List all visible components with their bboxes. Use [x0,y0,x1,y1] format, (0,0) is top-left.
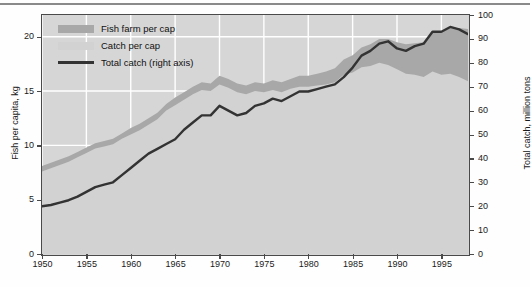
x-axis-tick-label: 1995 [424,259,460,269]
legend-swatch-total-catch [58,61,94,64]
legend-swatch-catch [58,42,94,50]
y-axis-right-tick-label: 70 [478,81,502,91]
y-axis-left-tick-label: 15 [12,86,34,96]
legend-item-fish-farm: Fish farm per cap [58,20,193,37]
y-axis-left-tick-label: 20 [12,31,34,41]
legend-item-catch: Catch per cap [58,37,193,54]
x-axis-tick-label: 1955 [69,259,105,269]
y-axis-right-tick-label: 50 [478,129,502,139]
y-axis-right-tick [469,230,474,231]
y-axis-right-tick [469,135,474,136]
chart-legend: Fish farm per cap Catch per cap Total ca… [58,20,193,71]
y-axis-left-title: Fish per capita, kg [10,58,20,188]
x-axis-tick [86,254,87,259]
y-axis-right-tick-label: 80 [478,57,502,67]
legend-item-total-catch: Total catch (right axis) [58,54,193,71]
x-axis-tick-label: 1990 [380,259,416,269]
x-axis-tick [264,254,265,259]
top-divider-rule [0,3,530,5]
y-axis-right-tick [469,182,474,183]
x-axis-tick-label: 1970 [202,259,238,269]
y-axis-right-tick [469,87,474,88]
x-axis-tick [397,254,398,259]
y-axis-left-tick-label: 10 [12,140,34,150]
x-axis-tick-label: 1960 [113,259,149,269]
y-axis-left-tick-label: 5 [12,194,34,204]
x-axis-tick-label: 1950 [25,259,61,269]
y-axis-left-tick [37,145,42,146]
x-axis-tick-label: 1985 [335,259,371,269]
legend-label-catch: Catch per cap [101,40,160,51]
y-axis-right-tick-label: 20 [478,201,502,211]
x-axis-tick-label: 1975 [246,259,282,269]
y-axis-right-tick [469,63,474,64]
y-axis-right-tick-label: 100 [478,10,502,20]
y-axis-right-tick-label: 10 [478,225,502,235]
y-axis-right-tick [469,206,474,207]
legend-label-fish-farm: Fish farm per cap [101,23,175,34]
y-axis-right-tick [469,111,474,112]
legend-label-total-catch: Total catch (right axis) [101,57,193,68]
x-axis-tick [353,254,354,259]
x-axis-tick [42,254,43,259]
x-axis-tick [441,254,442,259]
x-axis-tick [219,254,220,259]
x-axis-tick [131,254,132,259]
x-axis-tick-label: 1965 [158,259,194,269]
y-axis-right-tick [469,158,474,159]
y-axis-right-tick-label: 90 [478,33,502,43]
y-axis-right-tick [469,39,474,40]
x-axis-tick [308,254,309,259]
y-axis-right-tick-label: 30 [478,177,502,187]
y-axis-right-title: Total catch, million tons [522,48,532,198]
y-axis-left-tick [37,91,42,92]
y-axis-right-tick-label: 60 [478,105,502,115]
y-axis-right-tick-label: 0 [478,249,502,259]
y-axis-right-tick-label: 40 [478,153,502,163]
x-axis-tick [175,254,176,259]
y-axis-right-tick [469,254,474,255]
x-axis-tick-label: 1980 [291,259,327,269]
y-axis-right-tick [469,15,474,16]
y-axis-left-tick-label: 0 [12,249,34,259]
y-axis-left-tick [37,37,42,38]
legend-swatch-fish-farm [58,25,94,33]
y-axis-left-tick [37,200,42,201]
